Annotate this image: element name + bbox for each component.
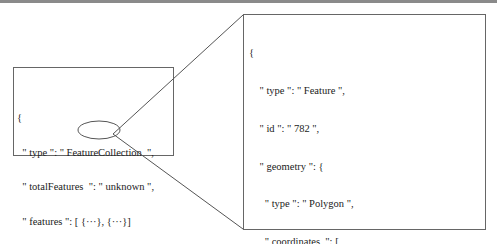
connector-line-top	[113, 15, 243, 134]
connector-line-bottom	[113, 134, 243, 229]
connector-overlay	[0, 0, 497, 244]
highlight-ellipse	[78, 121, 120, 139]
